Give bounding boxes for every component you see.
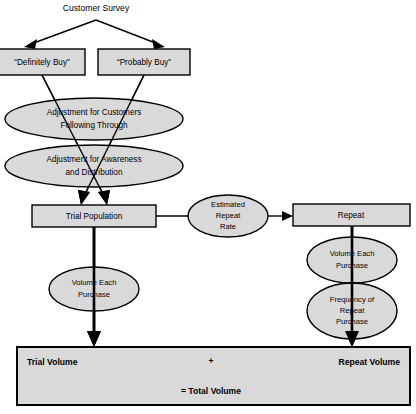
flowchart-diagram: Customer Survey “Definitely Buy” “Probab… — [0, 0, 416, 414]
node-probably-buy-label: “Probably Buy” — [117, 58, 171, 67]
flowchart-canvas: Customer Survey “Definitely Buy” “Probab… — [0, 0, 416, 414]
node-probably-buy[interactable]: “Probably Buy” — [98, 49, 190, 75]
node-repeat[interactable]: Repeat — [293, 204, 410, 226]
arrowhead-overlay-definitely — [98, 190, 110, 205]
node-trial-population-label: Trial Population — [66, 212, 123, 221]
node-estimated-repeat-rate-line3: Rate — [220, 222, 236, 231]
arrowhead-overlay-probably — [78, 190, 90, 205]
diagram-title: Customer Survey — [63, 3, 130, 13]
total-equals-total-volume-label: = Total Volume — [181, 386, 241, 396]
node-trial-population[interactable]: Trial Population — [32, 205, 156, 227]
connector-repeat-rate-to-repeat — [266, 211, 293, 221]
node-estimated-repeat-rate[interactable]: Estimated Repeat Rate — [188, 195, 268, 237]
node-total-volume-box[interactable]: Trial Volume + Repeat Volume = Total Vol… — [17, 347, 410, 405]
arrowhead-overlay-trial-trunk — [87, 331, 101, 347]
connector-survey-to-probably-buy — [96, 20, 165, 49]
total-trial-volume-label: Trial Volume — [27, 357, 78, 367]
total-repeat-volume-label: Repeat Volume — [339, 357, 401, 367]
node-definitely-buy[interactable]: “Definitely Buy” — [0, 49, 85, 75]
node-definitely-buy-label: “Definitely Buy” — [14, 58, 70, 67]
connector-survey-to-definitely-buy — [24, 20, 96, 49]
node-repeat-label: Repeat — [338, 211, 365, 220]
node-adjustment-awareness-line1: Adjustment for Awareness — [47, 155, 142, 164]
node-estimated-repeat-rate-line1: Estimated — [211, 200, 245, 209]
node-adjustment-awareness-distribution[interactable]: Adjustment for Awareness and Distributio… — [5, 145, 183, 187]
total-plus-sign: + — [208, 356, 213, 366]
node-estimated-repeat-rate-line2: Repeat — [216, 211, 241, 220]
node-adjustment-following-through[interactable]: Adjustment for Customers Following Throu… — [5, 98, 183, 140]
